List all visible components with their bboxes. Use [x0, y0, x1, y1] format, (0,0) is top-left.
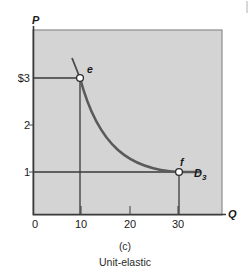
plot-area-background [33, 30, 222, 215]
data-point-e-label: e [87, 63, 93, 75]
x-tick-label-20: 20 [124, 218, 136, 230]
figure-caption: Unit-elastic [99, 256, 151, 268]
x-tick-label-0: 0 [32, 218, 38, 230]
demand-curve-label: D [194, 167, 202, 179]
panel-label: (c) [119, 240, 131, 252]
y-tick-label-3: $3 [18, 72, 30, 84]
x-tick-label-10: 10 [75, 218, 87, 230]
y-axis-label: P [32, 14, 40, 26]
data-point-e [77, 75, 84, 82]
x-axis-label: Q [228, 208, 237, 220]
demand-curve-label-subscript: 3 [202, 173, 207, 182]
x-tick-label-30: 30 [172, 218, 184, 230]
data-point-f [176, 169, 183, 176]
demand-curve-figure: P Q 0 10 20 30 $3 2 1 e f [0, 0, 250, 273]
chart-canvas: P Q 0 10 20 30 $3 2 1 e f [0, 0, 250, 273]
